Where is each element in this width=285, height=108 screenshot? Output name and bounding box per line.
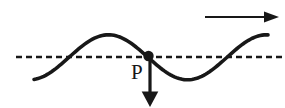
point-p-label: P xyxy=(131,60,143,84)
right-arrow-head xyxy=(264,12,279,23)
transverse-wave-diagram: P xyxy=(0,0,285,108)
right-arrow-icon xyxy=(205,12,279,23)
wave-diagram-svg: P xyxy=(0,0,285,108)
down-arrow-head xyxy=(142,92,159,108)
